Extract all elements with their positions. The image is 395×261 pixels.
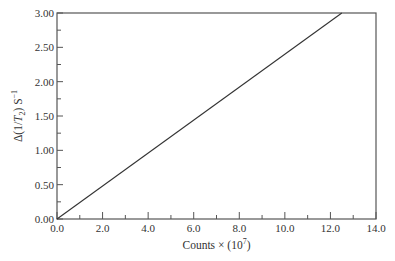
x-tick-label: 4.0: [141, 222, 155, 234]
y-tick-label: 3.00: [35, 7, 55, 19]
x-tick-label: 12.0: [321, 222, 341, 234]
y-tick-label: 2.50: [35, 41, 55, 53]
x-axis-label: Counts × (107): [183, 237, 251, 252]
y-tick-label: 1.50: [35, 110, 55, 122]
x-tick-label: 8.0: [232, 222, 246, 234]
x-tick-label: 6.0: [187, 222, 201, 234]
x-tick-label: 2.0: [96, 222, 110, 234]
x-tick-label: 14.0: [366, 222, 386, 234]
y-tick-label: 0.00: [35, 213, 55, 225]
chart-container: 0.02.04.06.08.010.012.014.00.000.501.001…: [0, 0, 395, 261]
y-tick-label: 0.50: [35, 179, 55, 191]
x-tick-label: 10.0: [275, 222, 295, 234]
y-tick-label: 1.00: [35, 144, 55, 156]
plot-frame: [57, 13, 376, 219]
data-line: [57, 13, 342, 219]
y-axis-label: Δ(1/T2) S−1: [10, 90, 27, 142]
y-tick-label: 2.00: [35, 76, 55, 88]
line-chart: 0.02.04.06.08.010.012.014.00.000.501.001…: [0, 0, 395, 261]
